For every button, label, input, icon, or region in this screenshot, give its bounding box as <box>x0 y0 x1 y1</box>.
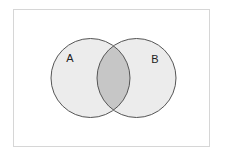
set-a-label: A <box>66 52 74 64</box>
venn-diagram: A B <box>0 0 225 154</box>
set-b-label: B <box>151 53 158 65</box>
